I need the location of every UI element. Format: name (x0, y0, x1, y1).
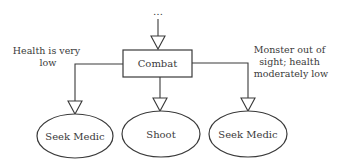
condition-right-line-2: sight; health (259, 56, 320, 67)
shoot-label: Shoot (146, 129, 175, 140)
arrowhead-right-icon (241, 98, 255, 111)
seek-medic-node-right[interactable]: Seek Medic (209, 111, 287, 157)
condition-right-line-3: moderately low (254, 68, 328, 79)
condition-left-line-2: low (40, 57, 57, 68)
condition-right-line-1: Monster out of (254, 44, 327, 55)
arrowhead-left-icon (68, 101, 82, 114)
condition-label-left: Health is very low (13, 45, 83, 68)
edge-to-seek-medic-left (75, 64, 123, 101)
condition-label-right: Monster out of sight; health moderately … (254, 44, 328, 79)
arrowhead-middle-icon (153, 98, 167, 111)
combat-node[interactable]: Combat (123, 50, 192, 77)
seek-medic-right-label: Seek Medic (218, 129, 278, 140)
seek-medic-node-left[interactable]: Seek Medic (37, 114, 113, 158)
entry-arrowhead-icon (151, 36, 165, 49)
shoot-node[interactable]: Shoot (122, 111, 200, 157)
edge-to-seek-medic-right (192, 63, 248, 98)
condition-left-line-1: Health is very (13, 45, 81, 56)
entry-ellipsis: … (153, 6, 163, 17)
combat-node-label: Combat (138, 58, 178, 69)
seek-medic-left-label: Seek Medic (45, 131, 105, 142)
behavior-tree-diagram: … Combat Health is very low Monster out … (0, 0, 343, 167)
